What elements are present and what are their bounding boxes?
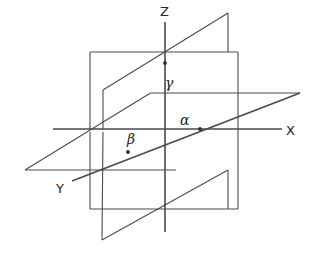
z-axis-label: Z [160,5,169,18]
yz-plane-edge-left-lower [102,132,103,240]
beta-point-dot [126,150,130,154]
xy-plane [25,93,300,170]
alpha-label: α [180,113,189,127]
coordinate-planes-figure: Z X Y α β γ [0,0,317,255]
x-axis-label: X [286,124,295,137]
alpha-point-dot [198,127,202,131]
figure-canvas [0,0,317,255]
point-markers-group [126,61,202,154]
y-axis-label: Y [56,182,64,195]
gamma-label: γ [165,76,173,90]
y-axis-line [72,93,300,181]
beta-label: β [127,132,135,146]
xz-plane [90,52,238,209]
gamma-point-dot [163,61,167,65]
